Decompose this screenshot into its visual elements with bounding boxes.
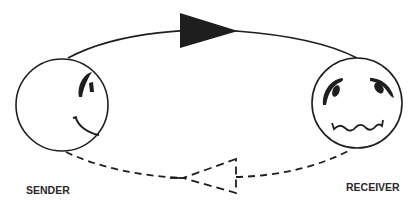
receiver-head (312, 58, 402, 148)
feedback-arc-dashed-right (236, 150, 350, 177)
sender-receiver-diagram (0, 0, 418, 211)
feedback-arc-dashed (66, 152, 183, 178)
sender-head (16, 59, 108, 151)
solid-arrowhead-icon (180, 13, 238, 48)
receiver-label: RECEIVER (346, 181, 400, 193)
sender-head-circle (16, 59, 108, 151)
hollow-arrowhead-icon (183, 159, 236, 193)
sender-label: SENDER (26, 184, 70, 196)
